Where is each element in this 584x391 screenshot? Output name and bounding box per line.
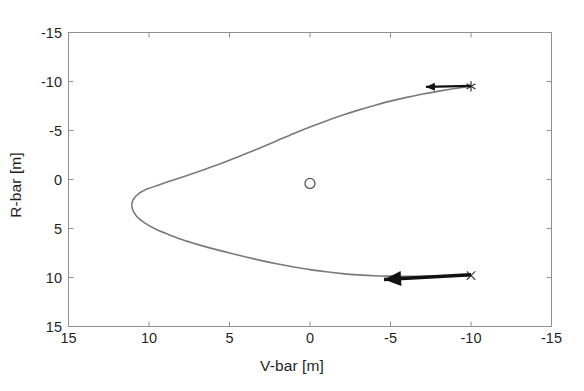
x-tick-label: 5 (225, 330, 233, 346)
x-tick-label: -5 (384, 330, 397, 346)
x-tick-label: 15 (60, 330, 76, 346)
x-axis-label: V-bar [m] (0, 357, 584, 375)
y-tick-label: -10 (24, 74, 62, 90)
y-tick-label: 0 (24, 172, 62, 188)
x-tick-label: -10 (461, 330, 482, 346)
axes-frame (69, 33, 552, 327)
y-tick-label: -15 (24, 25, 62, 41)
y-tick-label: -5 (24, 123, 62, 139)
y-tick-label: 10 (24, 270, 62, 286)
y-tick-label: 15 (24, 319, 62, 335)
y-axis-label: R-bar [m] (7, 125, 25, 245)
figure-canvas: V-bar [m] R-bar [m] 151050-5-10-15 -15-1… (0, 0, 584, 391)
plot-area (0, 0, 584, 391)
x-tick-label: 0 (306, 330, 314, 346)
y-tick-label: 5 (24, 221, 62, 237)
x-tick-label: -15 (541, 330, 562, 346)
x-tick-label: 10 (141, 330, 157, 346)
